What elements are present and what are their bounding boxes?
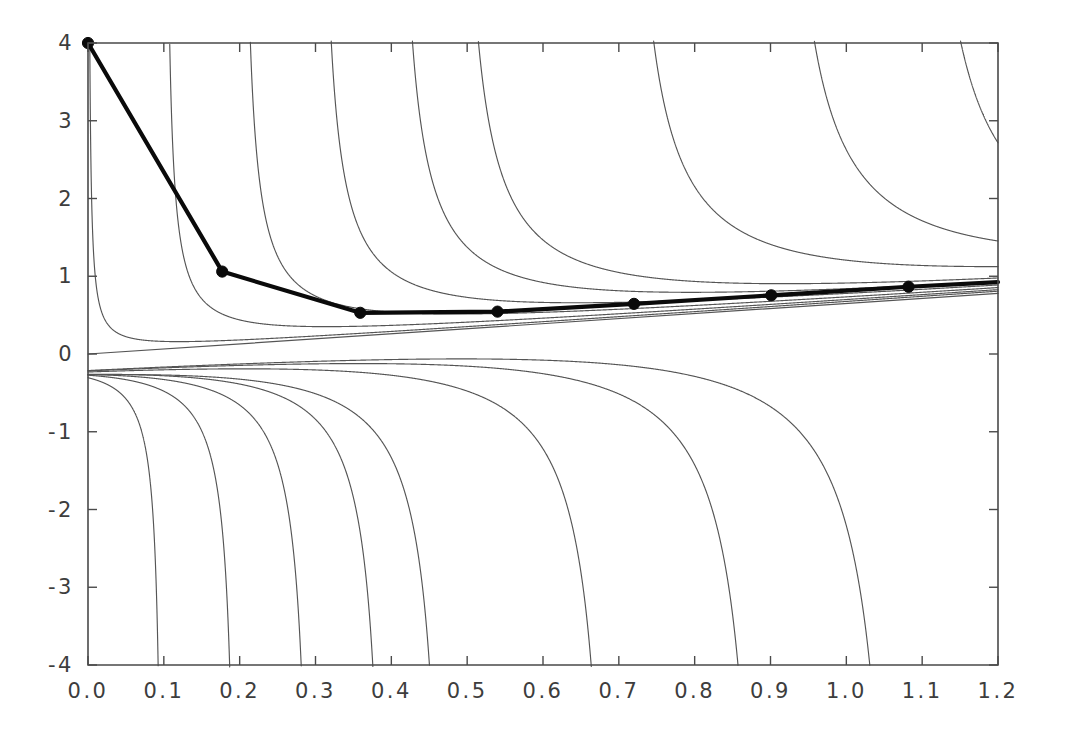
- family-curve-3-left-branch: [88, 375, 230, 667]
- y-tick-label-6: 2: [8, 188, 74, 209]
- y-tick-label-5: 1: [8, 266, 74, 287]
- thin-curve-family: [88, 41, 998, 667]
- family-curve-8-right-branch: [814, 41, 998, 241]
- family-curve-8-left-branch: [88, 364, 738, 666]
- x-tick-label-6: 0.6: [523, 681, 564, 702]
- iterate-markers-layer: [82, 37, 914, 318]
- plot-canvas: [0, 0, 1066, 747]
- family-curve-4-right-branch: [331, 41, 998, 303]
- family-curve-9-left-branch: [88, 359, 870, 665]
- family-curve-6-right-branch: [478, 41, 998, 283]
- x-tick-label-7: 0.7: [598, 681, 639, 702]
- y-tick-label-8: 4: [8, 33, 74, 54]
- family-curve-5-left-branch: [88, 374, 373, 666]
- iterate-marker-4: [628, 298, 639, 309]
- x-tick-label-10: 1.0: [826, 681, 867, 702]
- x-tick-label-3: 0.3: [295, 681, 336, 702]
- x-tick-label-0: 0.0: [68, 681, 109, 702]
- family-curve-5-right-branch: [412, 41, 998, 292]
- x-tick-label-11: 1.1: [902, 681, 943, 702]
- y-tick-label-1: -3: [8, 577, 74, 598]
- x-tick-label-12: 1.2: [978, 681, 1019, 702]
- y-tick-label-7: 3: [8, 110, 74, 131]
- iterate-marker-2: [355, 307, 366, 318]
- iterate-marker-5: [766, 290, 777, 301]
- x-tick-label-5: 0.5: [447, 681, 488, 702]
- y-tick-label-0: -4: [8, 655, 74, 676]
- x-tick-label-8: 0.8: [674, 681, 715, 702]
- family-curve-7-right-branch: [654, 41, 998, 267]
- chart-figure: 0.00.10.20.30.40.50.60.70.80.91.01.11.2-…: [0, 0, 1066, 747]
- iterate-marker-6: [903, 281, 914, 292]
- iterate-path: [88, 43, 909, 313]
- iterate-marker-1: [217, 266, 228, 277]
- family-curve-1-right-branch: [90, 46, 998, 342]
- y-tick-label-3: -1: [8, 421, 74, 442]
- family-curve-2-left-branch: [88, 378, 158, 666]
- family-curve-2-right-branch: [170, 44, 998, 326]
- family-curve-7-left-branch: [88, 369, 591, 667]
- iterate-marker-3: [492, 306, 503, 317]
- x-tick-label-2: 0.2: [219, 681, 260, 702]
- family-curve-9-right-branch: [961, 41, 998, 143]
- x-tick-label-4: 0.4: [371, 681, 412, 702]
- y-tick-label-4: 0: [8, 344, 74, 365]
- family-curve-6-left-branch: [88, 375, 429, 666]
- x-tick-label-9: 0.9: [750, 681, 791, 702]
- plot-frame: [88, 43, 998, 665]
- axes-layer: [88, 43, 998, 665]
- x-tick-label-1: 0.1: [143, 681, 184, 702]
- y-tick-label-2: -2: [8, 499, 74, 520]
